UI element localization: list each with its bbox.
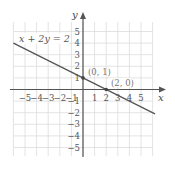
y-tick-label: 5 xyxy=(75,27,80,37)
point-label-2-0: (2, 0) xyxy=(111,78,134,88)
x-tick-label: 1 xyxy=(92,93,97,103)
point-2-0 xyxy=(104,88,108,92)
y-tick-label: 4 xyxy=(75,38,80,48)
y-tick-label: 3 xyxy=(75,50,80,60)
graph: x y −5−4−3−2−112345 54321−1−2−3−4−5 x + … xyxy=(0,0,175,172)
y-tick-label: −5 xyxy=(67,143,80,153)
y-tick-label: −1 xyxy=(67,96,80,106)
x-tick-label: 2 xyxy=(103,93,108,103)
y-tick-label: 2 xyxy=(75,61,80,71)
point-label-0-1: (0, 1) xyxy=(88,67,111,77)
x-axis-label: x xyxy=(158,92,164,103)
y-axis-arrow-icon xyxy=(80,12,86,19)
y-tick-label: −4 xyxy=(67,131,80,141)
y-tick-label: −2 xyxy=(67,108,80,118)
x-tick-label: 5 xyxy=(138,93,143,103)
y-axis-label: y xyxy=(71,9,78,20)
equation-label: x + 2y = 2 xyxy=(19,33,70,44)
point-0-1 xyxy=(81,76,85,80)
y-tick-label: −3 xyxy=(67,119,80,129)
